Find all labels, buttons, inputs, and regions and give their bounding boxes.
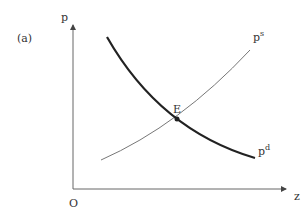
demand-curve (107, 37, 255, 158)
supply-label: ps (253, 30, 264, 43)
x-axis-label: z (294, 191, 300, 202)
equilibrium-label: E (173, 104, 181, 115)
demand-label: pd (258, 144, 270, 157)
y-axis-label: p (61, 12, 68, 23)
origin-label: O (69, 198, 78, 209)
equilibrium-point (175, 117, 180, 122)
panel-label: (a) (17, 33, 32, 44)
